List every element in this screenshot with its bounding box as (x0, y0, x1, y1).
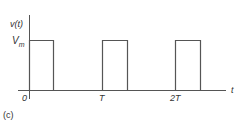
tick-2T: 2T (170, 94, 181, 103)
y-axis-label: v(t) (10, 20, 23, 29)
t-axis-label: t (231, 86, 234, 95)
figure-caption: (c) (3, 111, 14, 120)
amplitude-symbol: V (12, 35, 19, 46)
pulse-train-diagram (0, 0, 251, 125)
tick-0: 0 (22, 94, 27, 103)
amplitude-subscript: m (19, 41, 25, 48)
tick-T: T (99, 94, 105, 103)
pulse-waveform (30, 41, 201, 91)
amplitude-label: Vm (12, 36, 25, 48)
